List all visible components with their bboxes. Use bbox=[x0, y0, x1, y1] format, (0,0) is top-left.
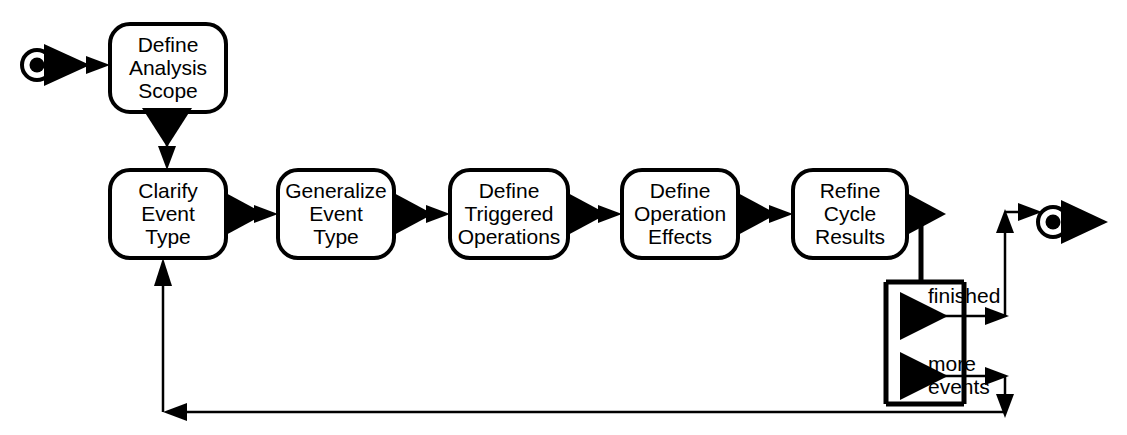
node-label-line-2: Analysis bbox=[129, 56, 207, 79]
guard-label-more: more bbox=[928, 352, 976, 375]
diagram-canvas: Define Analysis Scope Clarify Event Type… bbox=[0, 0, 1127, 435]
arrowhead-icon bbox=[254, 205, 278, 223]
node-define-analysis-scope[interactable]: Define Analysis Scope bbox=[110, 24, 226, 112]
node-define-operation-effects[interactable]: Define Operation Effects bbox=[622, 170, 738, 258]
edge-triggered-to-effects bbox=[566, 192, 622, 236]
arrowhead-icon bbox=[769, 205, 793, 223]
node-generalize-event-type[interactable]: Generalize Event Type bbox=[278, 170, 394, 258]
guard-label-finished: finished bbox=[928, 284, 1000, 307]
node-label-line-2: Operation bbox=[634, 202, 726, 225]
edge-effects-to-refine bbox=[736, 192, 793, 236]
node-label-line-1: Define bbox=[479, 179, 540, 202]
arrowhead-icon bbox=[86, 56, 110, 74]
node-define-triggered-operations[interactable]: Define Triggered Operations bbox=[450, 170, 568, 258]
node-label-line-3: Results bbox=[815, 225, 885, 248]
node-label-line-1: Define bbox=[650, 179, 711, 202]
node-label-line-2: Cycle bbox=[824, 202, 877, 225]
node-clarify-event-type[interactable]: Clarify Event Type bbox=[110, 170, 226, 258]
edge-generalize-to-triggered bbox=[392, 192, 450, 236]
edge-scope-to-clarify bbox=[142, 108, 192, 170]
node-label-line-3: Scope bbox=[138, 79, 198, 102]
arrowhead-icon bbox=[163, 403, 187, 421]
guard-label-events: events bbox=[928, 375, 990, 398]
start-state-marker bbox=[22, 44, 110, 86]
node-label-line-1: Generalize bbox=[285, 179, 387, 202]
arrowhead-icon bbox=[154, 258, 172, 286]
node-label-line-2: Triggered bbox=[464, 202, 553, 225]
edge-return-to-clarify bbox=[154, 258, 1005, 421]
node-label-line-3: Effects bbox=[648, 225, 712, 248]
node-label-line-3: Operations bbox=[458, 225, 561, 248]
node-label-line-1: Refine bbox=[820, 179, 881, 202]
arrowhead-icon bbox=[996, 394, 1014, 418]
arrowhead-icon bbox=[598, 205, 622, 223]
arrowhead-icon bbox=[158, 146, 176, 170]
node-label-line-1: Define bbox=[138, 33, 199, 56]
fat-arrow-icon bbox=[905, 192, 946, 236]
flowchart-svg: Define Analysis Scope Clarify Event Type… bbox=[0, 0, 1127, 435]
node-label-line-3: Type bbox=[145, 225, 191, 248]
arrowhead-icon bbox=[426, 205, 450, 223]
node-label-line-3: Type bbox=[313, 225, 359, 248]
fat-arrow-icon bbox=[1061, 200, 1108, 244]
branch-more-events[interactable]: more events bbox=[900, 352, 1014, 418]
node-label-line-2: Event bbox=[309, 202, 363, 225]
node-label-line-2: Event bbox=[141, 202, 195, 225]
end-state-marker bbox=[1038, 200, 1108, 244]
edge-clarify-to-generalize bbox=[224, 192, 278, 236]
node-label-line-1: Clarify bbox=[138, 179, 198, 202]
edge-refine-to-decision bbox=[905, 192, 946, 282]
node-refine-cycle-results[interactable]: Refine Cycle Results bbox=[793, 170, 907, 258]
